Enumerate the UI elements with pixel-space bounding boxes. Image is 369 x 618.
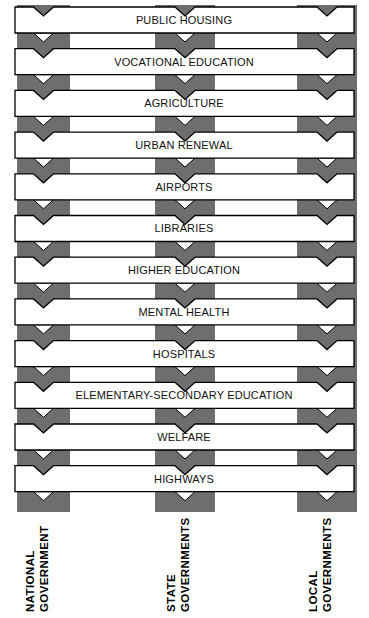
column-labels: NATIONALGOVERNMENTSTATEGOVERNMENTSLOCALG… <box>24 518 334 613</box>
column-label-line2: GOVERNMENTS <box>321 518 333 613</box>
bar-label: VOCATIONAL EDUCATION <box>114 56 254 68</box>
bar-label: LIBRARIES <box>155 222 214 234</box>
column-label-line1: NATIONAL <box>24 550 36 612</box>
bar-label: WELFARE <box>157 431 211 443</box>
column-label-line1: STATE <box>165 574 177 612</box>
bar-label: MENTAL HEALTH <box>139 306 230 318</box>
bar-label: AGRICULTURE <box>144 97 224 109</box>
column-label-local: LOCALGOVERNMENTS <box>307 518 333 613</box>
bar-label: HIGHWAYS <box>154 473 214 485</box>
column-label-line2: GOVERNMENTS <box>179 518 191 613</box>
weave-canvas: PUBLIC HOUSINGVOCATIONAL EDUCATIONAGRICU… <box>0 0 369 618</box>
column-label-line2: GOVERNMENT <box>38 526 50 612</box>
government-weave-diagram: PUBLIC HOUSINGVOCATIONAL EDUCATIONAGRICU… <box>0 0 369 618</box>
bar-label: HOSPITALS <box>153 348 215 360</box>
bar-label: URBAN RENEWAL <box>135 139 233 151</box>
bar-label: HIGHER EDUCATION <box>128 264 240 276</box>
column-label-state: STATEGOVERNMENTS <box>165 518 191 613</box>
bar-label: PUBLIC HOUSING <box>136 14 232 26</box>
column-label-national: NATIONALGOVERNMENT <box>24 526 50 612</box>
bar-label: ELEMENTARY-SECONDARY EDUCATION <box>75 389 292 401</box>
bar-label: AIRPORTS <box>155 181 212 193</box>
column-label-line1: LOCAL <box>307 570 319 612</box>
